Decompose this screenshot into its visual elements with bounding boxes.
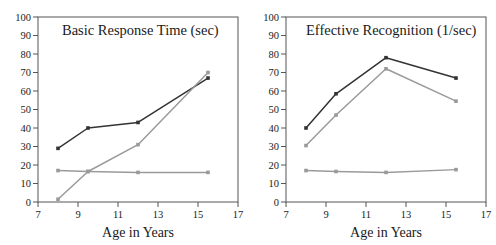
chart-panel-left: 0102030405060708090100 7911131517 Basic … — [0, 0, 248, 245]
y-tick-label: 20 — [269, 160, 280, 171]
y-tick-label: 10 — [21, 178, 32, 189]
data-point-marker — [384, 67, 388, 71]
data-point-marker — [454, 168, 458, 172]
y-tick-label: 100 — [263, 12, 279, 23]
x-tick-label: 11 — [113, 209, 123, 220]
x-axis-ticks-left — [38, 202, 238, 207]
data-point-marker — [454, 99, 458, 103]
chart-panel-right: 0102030405060708090100 7911131517 Effect… — [248, 0, 496, 245]
y-tick-label: 60 — [269, 86, 280, 97]
y-tick-label: 30 — [21, 141, 32, 152]
y-tick-label: 40 — [21, 123, 32, 134]
data-point-marker — [206, 171, 210, 175]
x-tick-label: 13 — [401, 209, 412, 220]
y-tick-label: 0 — [274, 197, 279, 208]
data-point-marker — [136, 171, 140, 175]
data-point-marker — [384, 56, 388, 60]
data-point-marker — [136, 143, 140, 147]
y-tick-label: 100 — [15, 12, 31, 23]
x-tick-labels-left: 7911131517 — [35, 209, 243, 220]
y-tick-label: 20 — [21, 160, 32, 171]
data-point-marker — [56, 147, 60, 151]
y-tick-label: 50 — [269, 104, 280, 115]
y-tick-label: 80 — [269, 49, 280, 60]
y-tick-label: 50 — [21, 104, 32, 115]
x-axis-ticks-right — [286, 202, 486, 207]
data-point-marker — [56, 169, 60, 173]
x-axis-title-right: Age in Years — [350, 225, 422, 240]
y-tick-label: 80 — [21, 49, 32, 60]
y-tick-label: 40 — [269, 123, 280, 134]
chart-svg-left: 0102030405060708090100 7911131517 Basic … — [0, 0, 248, 245]
data-point-marker — [304, 126, 308, 130]
y-tick-label: 0 — [26, 197, 31, 208]
y-tick-label: 10 — [269, 178, 280, 189]
y-tick-labels-left: 0102030405060708090100 — [15, 12, 31, 208]
y-tick-label: 30 — [269, 141, 280, 152]
data-point-marker — [206, 76, 210, 80]
x-tick-label: 9 — [323, 209, 328, 220]
panel-title-right: Effective Recognition (1/sec) — [306, 22, 477, 39]
data-point-marker — [56, 197, 60, 201]
x-tick-label: 17 — [481, 209, 492, 220]
y-axis-ticks-right — [281, 17, 286, 202]
two-panel-line-chart-figure: 0102030405060708090100 7911131517 Basic … — [0, 0, 496, 245]
data-point-marker — [86, 126, 90, 130]
panel-title-left: Basic Response Time (sec) — [62, 22, 219, 39]
data-point-marker — [206, 71, 210, 75]
y-tick-label: 70 — [21, 67, 32, 78]
chart-svg-right: 0102030405060708090100 7911131517 Effect… — [248, 0, 496, 245]
data-point-marker — [136, 121, 140, 125]
x-tick-label: 9 — [75, 209, 80, 220]
data-point-marker — [334, 113, 338, 117]
y-axis-ticks-left — [33, 17, 38, 202]
y-tick-label: 90 — [21, 30, 32, 41]
data-point-marker — [454, 76, 458, 80]
y-tick-label: 60 — [21, 86, 32, 97]
x-tick-label: 7 — [35, 209, 40, 220]
x-tick-label: 11 — [361, 209, 371, 220]
x-tick-label: 13 — [153, 209, 164, 220]
x-tick-label: 17 — [233, 209, 244, 220]
data-point-marker — [86, 170, 90, 174]
y-tick-label: 90 — [269, 30, 280, 41]
plot-frame-right — [286, 17, 486, 202]
data-point-marker — [334, 92, 338, 96]
y-tick-label: 70 — [269, 67, 280, 78]
plot-frame-left — [38, 17, 238, 202]
x-tick-label: 15 — [193, 209, 204, 220]
x-tick-labels-right: 7911131517 — [283, 209, 491, 220]
data-point-marker — [384, 171, 388, 175]
data-point-marker — [334, 170, 338, 174]
x-axis-title-left: Age in Years — [102, 225, 174, 240]
data-point-marker — [304, 144, 308, 148]
y-tick-labels-right: 0102030405060708090100 — [263, 12, 279, 208]
x-tick-label: 15 — [441, 209, 452, 220]
x-tick-label: 7 — [283, 209, 288, 220]
data-point-marker — [304, 169, 308, 173]
